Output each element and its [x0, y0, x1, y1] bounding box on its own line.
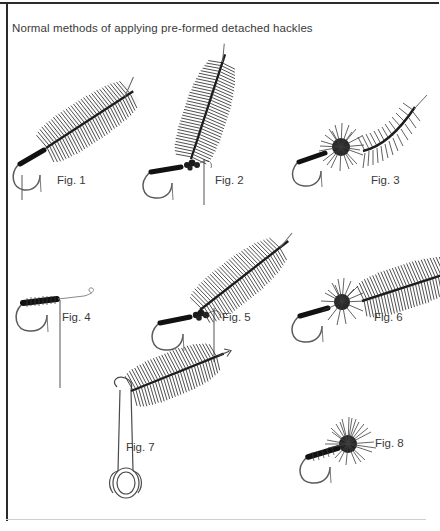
plate-top-border [0, 2, 439, 4]
hackle-body-fig3 [358, 95, 427, 168]
figure-caption-fig4: Fig. 4 [62, 311, 91, 323]
figure-caption-fig7: Fig. 7 [126, 441, 155, 453]
hackle-collar-fig3 [319, 123, 364, 171]
plate-title: Normal methods of applying pre-formed de… [12, 22, 313, 34]
hook-fig8 [300, 458, 331, 483]
thread-body-fig2 [151, 167, 181, 172]
figure-fig6 [280, 245, 440, 355]
figure-caption-fig1: Fig. 1 [57, 174, 86, 186]
hook-fig1 [13, 165, 41, 200]
hackle-body-fig2 [170, 38, 249, 166]
thread-body-fig1 [20, 150, 44, 164]
loop-tool-fig7 [110, 377, 142, 498]
hook-fig6 [292, 317, 323, 342]
figure-caption-fig8: Fig. 8 [375, 437, 404, 449]
hook-fig2 [143, 173, 173, 200]
figure-fig5 [120, 222, 280, 362]
hackle-collar-fig6 [321, 278, 365, 325]
thread-body-fig5 [160, 317, 190, 323]
figure-fig2 [125, 55, 275, 205]
thread-body-fig6 [300, 308, 328, 316]
thread-body-fig3 [299, 153, 325, 162]
figure-caption-fig2: Fig. 2 [215, 174, 244, 186]
figure-fig3 [285, 85, 440, 195]
figure-fig7 [95, 365, 275, 525]
hook-fig5 [152, 324, 184, 351]
hook-fig4 [16, 304, 48, 332]
projecting-stub-fig4 [58, 288, 94, 299]
figure-fig8 [288, 400, 438, 490]
hackle-ball-fig8 [325, 417, 376, 465]
hook-fig3 [293, 163, 322, 187]
figure-caption-fig3: Fig. 3 [371, 174, 400, 186]
figure-caption-fig5: Fig. 5 [222, 311, 251, 323]
thread-body-fig4 [23, 299, 57, 303]
figure-caption-fig6: Fig. 6 [374, 311, 403, 323]
